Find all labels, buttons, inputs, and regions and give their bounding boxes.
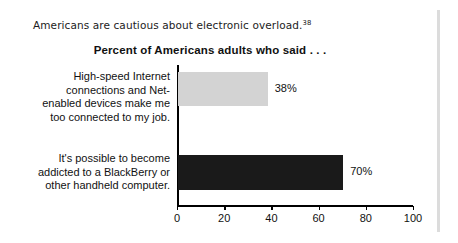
category-label-line: too connected to my job. xyxy=(22,111,170,125)
figure-container: Americans are cautious about electronic … xyxy=(0,0,458,243)
x-axis-tick-label: 100 xyxy=(404,212,422,224)
caption-text: Americans are cautious about electronic … xyxy=(33,19,303,31)
plot-area: 38% 70% 020406080100 xyxy=(177,65,413,206)
category-label-line: connections and Net- xyxy=(22,84,170,98)
x-axis-tick-label: 0 xyxy=(174,212,180,224)
x-axis-line xyxy=(177,205,413,207)
x-axis-tick-label: 40 xyxy=(265,212,277,224)
x-axis-tick-mark xyxy=(366,206,367,210)
figure-caption: Americans are cautious about electronic … xyxy=(33,19,311,31)
x-axis-tick-mark xyxy=(271,206,272,210)
bar-blackberry-addiction xyxy=(178,155,343,190)
category-label-blackberry-addiction: It's possible to become addicted to a Bl… xyxy=(14,152,170,193)
x-axis-tick-mark xyxy=(224,206,225,210)
x-axis-tick-label: 60 xyxy=(312,212,324,224)
caption-footnote-marker: 38 xyxy=(303,19,312,27)
category-label-line: It's possible to become xyxy=(14,152,170,166)
x-axis-tick-label: 80 xyxy=(360,212,372,224)
category-label-line: other handheld computer. xyxy=(14,179,170,193)
x-axis-tick-mark xyxy=(319,206,320,210)
bar-value-label: 70% xyxy=(350,165,372,177)
bar-value-label: 38% xyxy=(275,82,297,94)
category-label-line: High-speed Internet xyxy=(22,70,170,84)
page-column-rule xyxy=(437,10,440,232)
category-label-line: addicted to a BlackBerry or xyxy=(14,166,170,180)
bar-internet-connections xyxy=(178,72,268,106)
category-label-internet-connections: High-speed Internet connections and Net-… xyxy=(22,70,170,124)
x-axis-tick-mark xyxy=(413,206,414,210)
x-axis-tick-label: 20 xyxy=(218,212,230,224)
chart-title: Percent of Americans adults who said . .… xyxy=(0,44,420,56)
x-axis-tick-mark xyxy=(177,206,178,210)
category-label-line: enabled devices make me xyxy=(22,97,170,111)
